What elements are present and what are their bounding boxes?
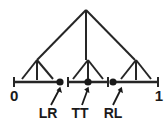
point-label-lr: LR [39,105,58,120]
point-label-tt: TT [71,105,89,120]
left-sub-edge-c-icon [37,60,53,79]
dot-rl-icon [109,78,116,85]
arrow-to-lr-icon [51,87,62,105]
figure-container: 0 1 LR TT RL [0,0,168,120]
right-sub-edge-a-icon [121,60,136,79]
tree-interval-diagram: 0 1 LR TT RL [0,0,168,120]
mid-sub-edge-c-icon [88,60,103,79]
root-edge-left-icon [37,10,86,60]
root-edge-right-icon [86,10,135,60]
dot-tt-icon [84,78,91,85]
dot-lr-icon [56,78,63,85]
tree-root-edges [37,10,135,60]
axis-start-label: 0 [10,87,18,104]
arrow-to-rl-icon [113,87,123,105]
axis-end-label: 1 [155,87,163,104]
subtree-middle [73,60,103,80]
mid-sub-edge-a-icon [73,60,88,79]
point-label-rl: RL [104,105,123,120]
subtree-right [121,60,151,80]
right-sub-edge-c-icon [136,60,151,79]
pointer-arrows [51,87,123,105]
subtree-left [22,60,53,80]
arrow-to-tt-icon [82,87,89,105]
left-sub-edge-a-icon [22,60,37,79]
